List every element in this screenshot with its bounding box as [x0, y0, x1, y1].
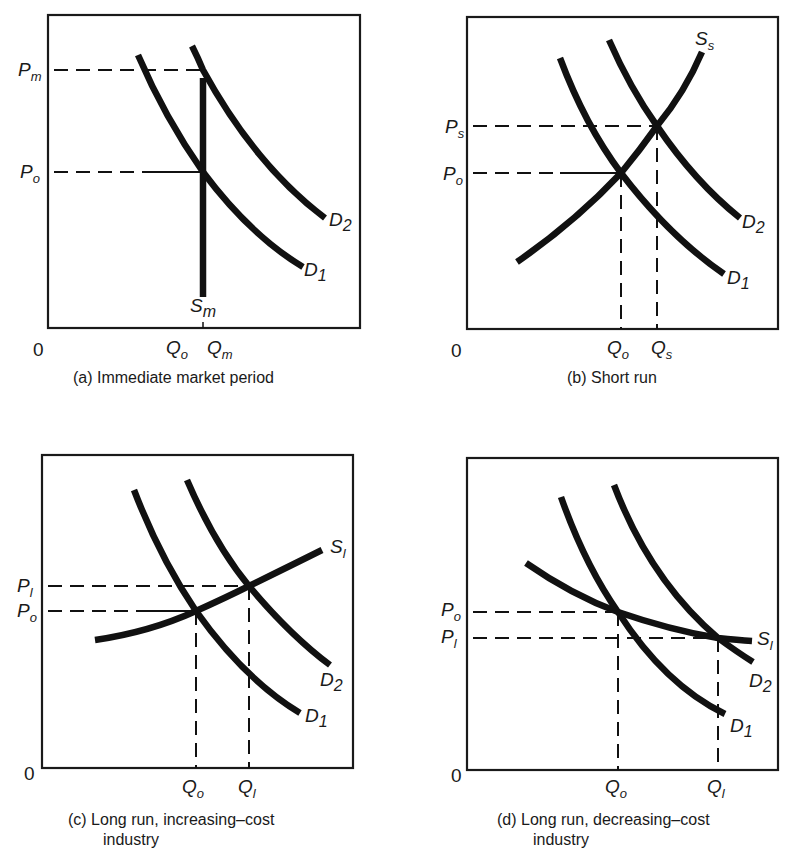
label-d2: D2 [329, 209, 352, 234]
label-sm: Sm [190, 295, 216, 320]
label-d2: D2 [742, 211, 765, 236]
panel-c-increasing-cost: Sl Pl Po D2 D1 0 Qo Ql [17, 455, 353, 801]
demand-curve-d2 [187, 480, 330, 665]
label-d2: D2 [320, 669, 343, 694]
origin-zero: 0 [451, 765, 462, 786]
demand-curve-d1 [561, 497, 725, 714]
origin-zero: 0 [24, 763, 35, 784]
figure-canvas: Pm Po D2 D1 Sm 0 Qo Qm Ss Ps Po D2 D1 0 … [0, 0, 800, 868]
label-pl: Pl [17, 575, 34, 600]
label-pl: Pl [441, 626, 458, 651]
label-sl: Sl [757, 628, 774, 653]
label-d1: D1 [304, 259, 327, 284]
label-po: Po [443, 163, 463, 188]
demand-curve-d2 [192, 46, 325, 218]
caption-panel-c-line1: (c) Long run, increasing–cost [68, 810, 274, 830]
label-qo: Qo [605, 776, 627, 801]
panel-a-immediate-market: Pm Po D2 D1 Sm 0 Qo Qm [18, 15, 360, 362]
caption-panel-c-line2: industry [103, 830, 159, 850]
caption-panel-a: (a) Immediate market period [73, 368, 274, 388]
label-d1: D1 [727, 267, 750, 292]
label-qm: Qm [207, 337, 233, 362]
label-ql: Ql [707, 776, 726, 801]
origin-zero: 0 [33, 339, 44, 360]
label-qo: Qo [166, 337, 188, 362]
panel-b-short-run: Ss Ps Po D2 D1 0 Qo Qs [443, 17, 778, 362]
demand-curve-d1 [560, 58, 724, 274]
caption-panel-d-line2: industry [533, 830, 589, 850]
label-qs: Qs [651, 337, 673, 362]
panel-d-decreasing-cost: Sl Po Pl D2 D1 0 Qo Ql [441, 458, 778, 801]
caption-panel-b: (b) Short run [567, 368, 657, 388]
label-qo: Qo [182, 776, 204, 801]
label-d2: D2 [749, 670, 772, 695]
demand-curve-d2 [609, 40, 740, 218]
label-po: Po [441, 599, 461, 624]
caption-panel-d-line1: (d) Long run, decreasing–cost [497, 810, 710, 830]
label-po: Po [17, 600, 37, 625]
label-ql: Ql [238, 776, 257, 801]
origin-zero: 0 [451, 340, 462, 361]
label-d1: D1 [305, 705, 328, 730]
label-pm: Pm [18, 59, 42, 84]
label-po: Po [20, 161, 40, 186]
label-ps: Ps [445, 116, 465, 141]
supply-curve-sl [526, 563, 752, 641]
demand-curve-d1 [138, 55, 303, 267]
label-sl: Sl [330, 536, 347, 561]
label-qo: Qo [607, 337, 629, 362]
label-d1: D1 [730, 715, 753, 740]
label-ss: Ss [695, 28, 715, 53]
